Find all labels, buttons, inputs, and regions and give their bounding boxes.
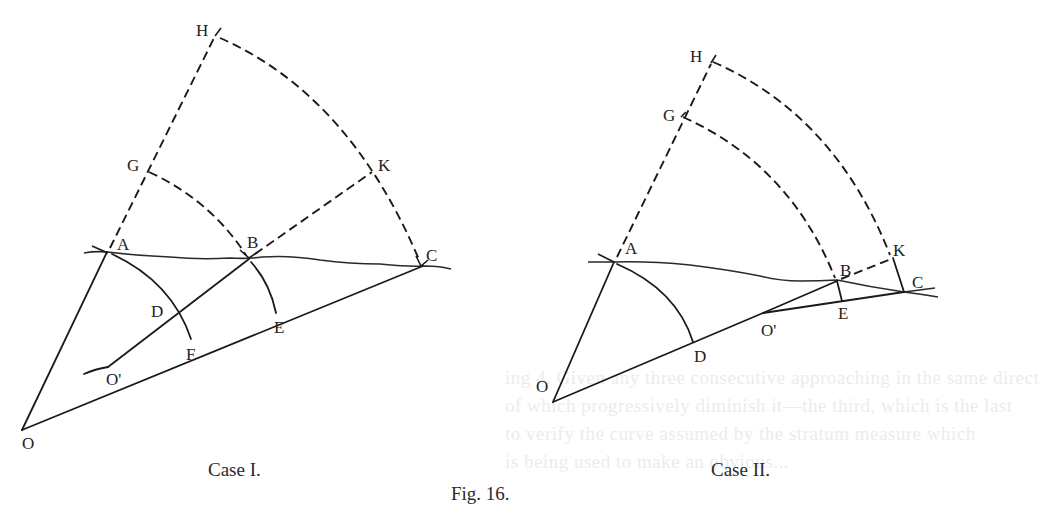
- case-2-line-OprimeC: [763, 292, 904, 313]
- case-2-label-E: E: [838, 305, 848, 322]
- case-2-curve: [588, 262, 938, 297]
- case-2-line-OD-Oprime: [553, 313, 763, 402]
- case-2-arc-AD: [617, 264, 693, 342]
- case-1-label-B: B: [247, 234, 258, 251]
- case-2-label-O-prime: O': [761, 322, 776, 339]
- case-1-label-H: H: [196, 22, 208, 39]
- case-2-label-A: A: [625, 240, 637, 257]
- case-1-label-F: F: [186, 346, 195, 363]
- case-1-dashed-AH: [110, 38, 214, 248]
- case-1-arc-O-prime-stub: [84, 367, 108, 374]
- case-1-tick-H: [215, 28, 221, 36]
- case-1-arc-BE: [251, 262, 276, 313]
- case-1-line-OC: [22, 266, 423, 430]
- case-2-caption: Case II.: [711, 460, 770, 479]
- case-2-label-B: B: [840, 262, 851, 279]
- case-2-tick-A: [598, 254, 614, 262]
- case-1-dashed-BK: [255, 172, 372, 254]
- case-2-label-D: D: [694, 348, 706, 365]
- case-1-curve: [84, 252, 451, 269]
- case-1-dashed-arc-HC: [220, 38, 420, 262]
- case-2-label-H: H: [690, 48, 702, 65]
- case-2-diagram: [553, 55, 938, 402]
- case-1-arc-AF: [112, 254, 191, 339]
- case-1-label-C: C: [426, 247, 437, 264]
- case-1-line-OA: [22, 252, 107, 430]
- case-1-dashed-arc-GB: [149, 172, 246, 255]
- case-1-label-A: A: [117, 236, 129, 253]
- case-2-label-G: G: [663, 107, 675, 124]
- case-2-label-O: O: [536, 378, 548, 395]
- case-2-line-BE: [837, 281, 842, 301]
- figure-title: Fig. 16.: [451, 484, 510, 503]
- case-1-label-O-prime: O': [106, 371, 121, 388]
- case-2-label-C: C: [912, 274, 923, 291]
- case-2-label-K: K: [893, 242, 905, 259]
- case-1-label-O: O: [22, 435, 34, 452]
- case-1-caption: Case I.: [208, 460, 261, 479]
- case-1-label-G: G: [127, 157, 139, 174]
- case-1-diagram: [22, 28, 451, 430]
- case-2-line-KC: [893, 258, 904, 292]
- case-1-label-D: D: [151, 303, 163, 320]
- case-1-label-K: K: [378, 157, 390, 174]
- case-1-label-E: E: [274, 319, 284, 336]
- case-2-dashed-arc-HK: [713, 62, 890, 255]
- case-2-dashed-arc-GB: [683, 117, 835, 278]
- case-2-dashed-AH: [617, 64, 711, 257]
